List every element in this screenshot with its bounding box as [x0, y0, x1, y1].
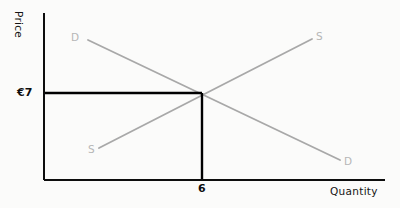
demand-curve-label-bottom: D [344, 156, 352, 167]
chart-canvas [0, 0, 400, 208]
x-axis-title: Quantity [330, 186, 378, 197]
supply-demand-chart: Price Quantity €7 6 D D S S [0, 0, 400, 208]
supply-curve-label-bottom: S [88, 144, 95, 155]
y-axis-tick-label-price: €7 [17, 87, 32, 98]
demand-curve [88, 40, 340, 160]
demand-curve-label-top: D [71, 32, 79, 43]
x-axis-tick-label-quantity: 6 [198, 183, 206, 194]
supply-curve-label-top: S [316, 31, 323, 42]
y-axis-title: Price [14, 11, 25, 38]
